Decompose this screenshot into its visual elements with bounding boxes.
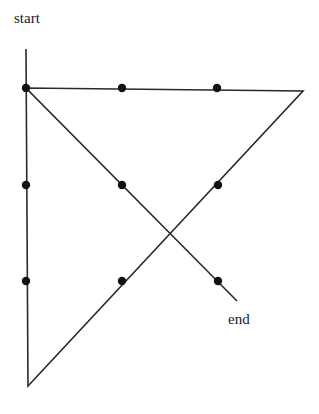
- grid-dot: [22, 84, 30, 92]
- nine-dots-diagram: [0, 0, 319, 414]
- grid-dot: [118, 277, 126, 285]
- grid-dot: [214, 181, 222, 189]
- grid-dot: [214, 277, 222, 285]
- grid-dot: [22, 181, 30, 189]
- grid-dot: [118, 84, 126, 92]
- grid-dot: [22, 277, 30, 285]
- grid-dot: [118, 181, 126, 189]
- solution-path: [26, 49, 303, 386]
- grid-dot: [213, 84, 221, 92]
